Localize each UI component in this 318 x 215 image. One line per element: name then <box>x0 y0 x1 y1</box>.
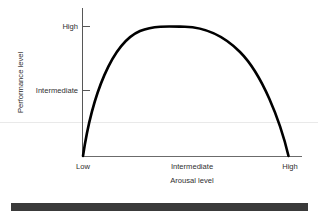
y-axis-title: Performance level <box>16 33 25 133</box>
performance-curve <box>83 26 289 156</box>
x-tick-label-low: Low <box>68 162 98 171</box>
y-tick-label-high: High <box>62 22 78 31</box>
footer-bar <box>11 203 308 211</box>
x-axis-title: Arousal level <box>157 176 227 185</box>
x-tick-label-high: High <box>275 162 305 171</box>
x-tick-label-intermediate: Intermediate <box>157 162 227 171</box>
y-tick-label-intermediate: Intermediate <box>36 86 78 95</box>
figure-container: High Intermediate Low Intermediate High … <box>0 0 318 215</box>
